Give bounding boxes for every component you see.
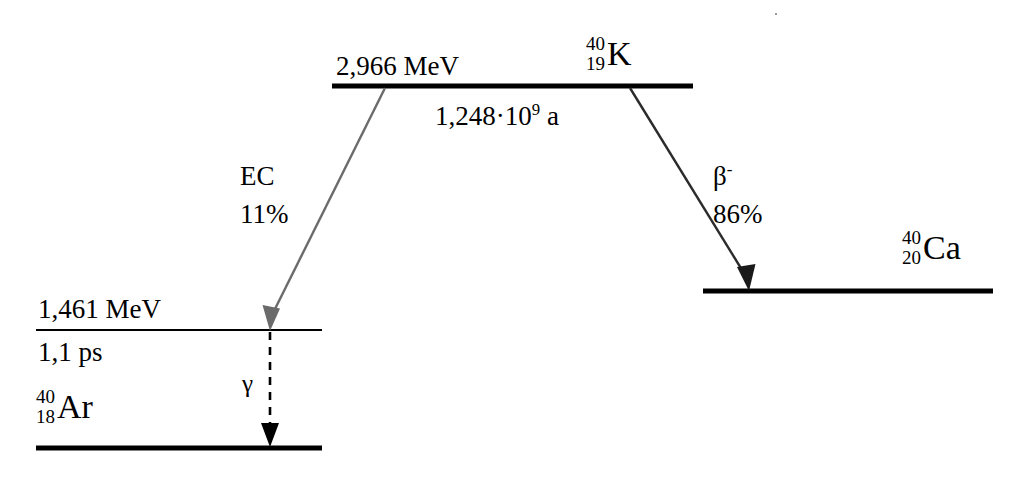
parent-nuclide-numbers: 40 19 bbox=[586, 34, 605, 75]
parent-halflife-unit: a bbox=[547, 101, 559, 131]
parent-atomic-number: 19 bbox=[586, 54, 605, 74]
parent-halflife-base: 1,248·10 bbox=[435, 101, 532, 131]
ca-nuclide-symbol: 40 20 Ca bbox=[902, 228, 961, 269]
scan-artifact-speck bbox=[775, 13, 777, 15]
electron-capture-label: EC bbox=[240, 163, 275, 190]
excited-level-energy-label: 1,461 MeV bbox=[38, 296, 161, 323]
beta-charge-sign: - bbox=[727, 160, 733, 179]
beta-symbol: β bbox=[713, 161, 727, 191]
parent-halflife-exponent: 9 bbox=[532, 100, 540, 119]
transition-arrow-gamma bbox=[261, 332, 279, 447]
parent-mass-number: 40 bbox=[586, 34, 605, 54]
decay-scheme-diagram: 2,966 MeV 40 19 K 1,248·109 a EC 11% β- … bbox=[0, 0, 1027, 477]
gamma-transition-label: γ bbox=[242, 371, 253, 396]
beta-minus-intensity: 86% bbox=[713, 201, 763, 228]
ar-nuclide-symbol: 40 18 Ar bbox=[36, 387, 93, 428]
electron-capture-intensity: 11% bbox=[240, 201, 289, 228]
ar-element-symbol: Ar bbox=[57, 390, 93, 424]
ca-nuclide-numbers: 40 20 bbox=[902, 228, 921, 269]
excited-level-halflife-label: 1,1 ps bbox=[38, 339, 103, 366]
ca-mass-number: 40 bbox=[902, 228, 921, 248]
parent-element-symbol: K bbox=[607, 37, 632, 71]
ar-nuclide-numbers: 40 18 bbox=[36, 387, 55, 428]
beta-minus-label: β- bbox=[713, 163, 732, 190]
transition-arrow-beta-minus bbox=[630, 88, 756, 291]
parent-nuclide-symbol: 40 19 K bbox=[586, 34, 632, 75]
ar-mass-number: 40 bbox=[36, 387, 55, 407]
parent-halflife-label: 1,248·109 a bbox=[435, 103, 559, 130]
diagram-vector-layer bbox=[0, 0, 1027, 477]
ca-element-symbol: Ca bbox=[923, 231, 961, 265]
ca-atomic-number: 20 bbox=[902, 248, 921, 268]
parent-energy-label: 2,966 MeV bbox=[336, 53, 459, 80]
ar-atomic-number: 18 bbox=[36, 407, 55, 427]
